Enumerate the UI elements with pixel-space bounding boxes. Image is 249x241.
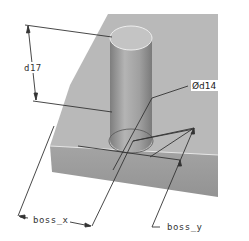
boss-x-label: boss_x: [33, 215, 69, 225]
boss-y-label: boss_y: [167, 222, 203, 232]
cad-drawing: d17 Ød14 boss_x boss_y: [0, 0, 249, 241]
cylinder-body: [110, 38, 152, 152]
cylinder-top: [110, 26, 152, 50]
d17-label: d17: [24, 63, 42, 73]
d14-label: Ød14: [192, 81, 217, 91]
